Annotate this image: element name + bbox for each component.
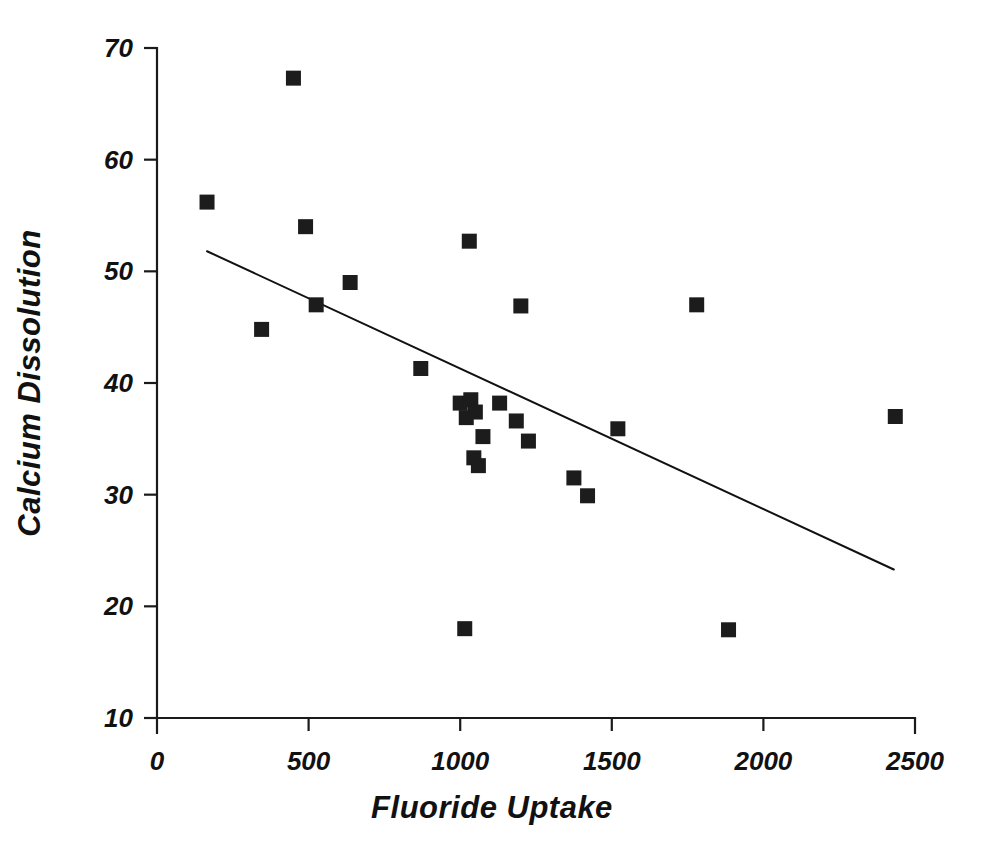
data-point xyxy=(721,622,736,637)
data-point xyxy=(254,322,269,337)
x-tick-label: 0 xyxy=(150,746,165,776)
data-point xyxy=(509,413,524,428)
y-tick-marks xyxy=(144,48,157,718)
data-point xyxy=(298,219,313,234)
y-tick-label: 60 xyxy=(104,145,133,175)
data-point xyxy=(200,195,215,210)
scatter-plot-figure: 10203040506070 05001000150020002500 Fluo… xyxy=(0,0,984,846)
x-tick-label: 2000 xyxy=(733,746,792,776)
data-point-markers xyxy=(200,71,903,638)
data-point xyxy=(343,275,358,290)
data-point xyxy=(309,297,324,312)
x-tick-label: 1000 xyxy=(431,746,489,776)
data-point xyxy=(468,405,483,420)
x-tick-label: 1500 xyxy=(583,746,641,776)
data-point xyxy=(492,396,507,411)
y-tick-label: 10 xyxy=(104,703,133,733)
data-point xyxy=(475,429,490,444)
data-point xyxy=(462,234,477,249)
y-tick-label: 40 xyxy=(103,368,133,398)
x-axis-title: Fluoride Uptake xyxy=(371,790,613,825)
data-point xyxy=(689,297,704,312)
data-point xyxy=(888,409,903,424)
data-point xyxy=(580,488,595,503)
x-axis-group: 05001000150020002500 xyxy=(150,48,945,776)
data-point xyxy=(566,470,581,485)
y-axis-group: 10203040506070 xyxy=(103,33,157,733)
y-tick-label: 20 xyxy=(103,591,133,621)
plot-canvas: 10203040506070 05001000150020002500 Fluo… xyxy=(0,0,984,846)
y-axis-title: Calcium Dissolution xyxy=(12,229,47,536)
y-tick-label: 70 xyxy=(104,33,133,63)
y-tick-label: 50 xyxy=(104,256,133,286)
y-tick-labels: 10203040506070 xyxy=(103,33,133,733)
data-point xyxy=(521,434,536,449)
data-point xyxy=(471,458,486,473)
data-point xyxy=(413,361,428,376)
data-point xyxy=(457,621,472,636)
x-tick-marks xyxy=(157,48,915,734)
x-tick-label: 500 xyxy=(287,746,331,776)
x-tick-label: 2500 xyxy=(885,746,944,776)
y-tick-label: 30 xyxy=(104,480,133,510)
x-tick-labels: 05001000150020002500 xyxy=(150,746,945,776)
data-point xyxy=(286,71,301,86)
data-point xyxy=(610,421,625,436)
data-point xyxy=(513,298,528,313)
